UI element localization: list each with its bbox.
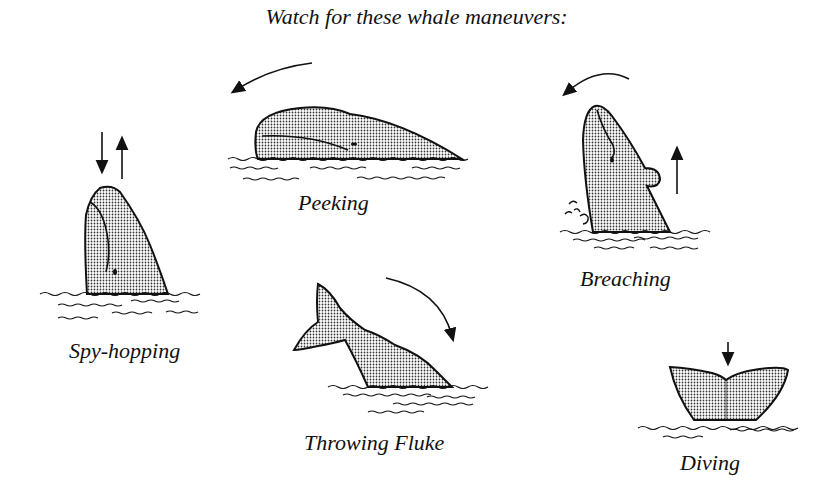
whale-fluke-diving <box>670 367 788 420</box>
label-peeking: Peeking <box>298 190 369 216</box>
whale-maneuvers-illustration <box>0 0 833 495</box>
label-breaching: Breaching <box>580 266 671 292</box>
label-spy-hopping: Spy-hopping <box>69 338 180 364</box>
diving-illustration <box>638 342 798 438</box>
throwing-fluke-illustration <box>294 278 488 413</box>
breaching-illustration <box>560 74 710 249</box>
curved-arrow-icon <box>386 278 452 336</box>
label-diving: Diving <box>680 450 740 476</box>
spy-hopping-illustration <box>40 132 200 319</box>
curved-arrow-icon <box>567 74 629 92</box>
whale-peeking <box>255 107 462 159</box>
whale-fluke-throwing <box>294 284 452 387</box>
peeking-illustration <box>228 63 468 180</box>
label-throwing-fluke: Throwing Fluke <box>304 430 444 456</box>
whale-breaching <box>583 106 670 232</box>
whale-spy-hopping <box>85 187 168 294</box>
curved-arrow-icon <box>236 63 312 90</box>
